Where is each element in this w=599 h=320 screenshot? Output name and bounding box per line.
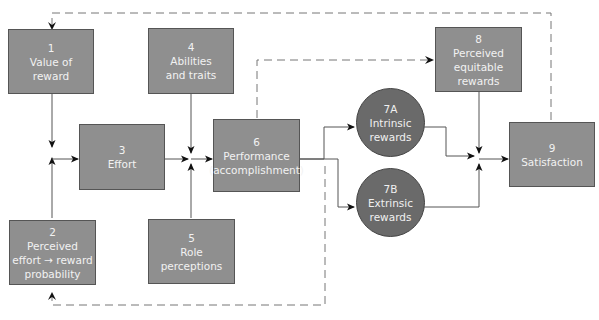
node-5-role-perceptions: 5 Role perceptions xyxy=(148,219,235,284)
node-number: 9 xyxy=(549,141,556,155)
node-label-line: probability xyxy=(24,267,80,281)
node-7a-intrinsic-rewards: 7A Intrinsic rewards xyxy=(356,88,425,157)
node-label-line: Perceived xyxy=(453,46,504,60)
node-label-line: Intrinsic xyxy=(370,116,412,130)
node-label-line: Abilities xyxy=(170,54,212,68)
node-label-line: effort → reward xyxy=(12,253,92,267)
node-label-line: Perceived xyxy=(27,239,78,253)
node-number: 7B xyxy=(384,182,398,196)
node-label-line: Effort xyxy=(108,157,137,171)
node-number: 5 xyxy=(188,231,195,245)
node-2-perceived-effort-reward-probability: 2 Perceived effort → reward probability xyxy=(9,220,96,285)
node-label-line: Role xyxy=(180,245,203,259)
node-number: 7A xyxy=(384,102,398,116)
node-label-line: Value of xyxy=(30,55,72,69)
node-label-line: Extrinsic xyxy=(368,196,413,210)
node-3-effort: 3 Effort xyxy=(79,124,165,190)
node-label-line: (accomplishment) xyxy=(209,163,304,177)
node-number: 1 xyxy=(48,41,55,55)
node-number: 8 xyxy=(475,32,482,46)
node-7b-extrinsic-rewards: 7B Extrinsic rewards xyxy=(356,168,425,237)
node-label-line: equitable xyxy=(454,60,503,74)
node-8-perceived-equitable-rewards: 8 Perceived equitable rewards xyxy=(435,27,522,92)
edge-6-7b xyxy=(299,159,354,207)
node-label-line: perceptions xyxy=(161,259,223,273)
node-label-line: reward xyxy=(33,69,69,83)
edge-7a-junction xyxy=(424,127,474,156)
node-6-performance: 6 Performance (accomplishment) xyxy=(213,119,300,192)
node-4-abilities-and-traits: 4 Abilities and traits xyxy=(148,28,234,94)
motivation-model-diagram: 1 Value of reward 2 Perceived effort → r… xyxy=(0,0,599,320)
node-label-line: rewards xyxy=(458,74,500,88)
node-label-line: Performance xyxy=(223,149,290,163)
node-9-satisfaction: 9 Satisfaction xyxy=(509,122,595,187)
node-number: 3 xyxy=(119,143,126,157)
node-label-line: rewards xyxy=(370,210,412,224)
node-1-value-of-reward: 1 Value of reward xyxy=(8,29,94,94)
node-number: 4 xyxy=(188,40,195,54)
node-label-line: and traits xyxy=(166,68,216,82)
node-label-line: Satisfaction xyxy=(521,155,583,169)
edge-7b-junction xyxy=(424,164,479,207)
node-number: 6 xyxy=(253,135,260,149)
node-label-line: rewards xyxy=(370,130,412,144)
edge-6-7a xyxy=(299,127,354,159)
node-number: 2 xyxy=(49,225,56,239)
